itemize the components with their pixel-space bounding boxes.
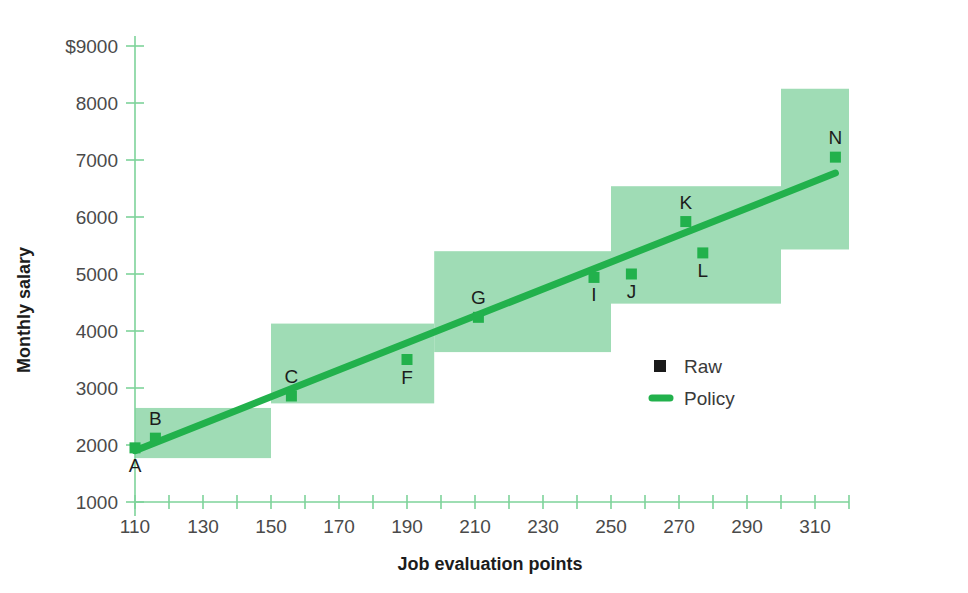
- y-tick-label: 1000: [76, 492, 118, 513]
- data-point-I: [589, 272, 600, 283]
- x-axis-title: Job evaluation points: [397, 554, 582, 574]
- data-point-label-K: K: [679, 192, 692, 213]
- x-tick-label: 230: [527, 516, 559, 537]
- data-point-label-C: C: [285, 366, 299, 387]
- y-tick-label: 4000: [76, 321, 118, 342]
- salary-band-rectangles: [135, 89, 849, 458]
- x-tick-label: 110: [120, 516, 150, 537]
- legend-marker-raw: [654, 360, 666, 372]
- data-point-label-B: B: [149, 408, 162, 429]
- x-tick-label: 210: [459, 516, 491, 537]
- data-point-label-L: L: [698, 260, 709, 281]
- x-tick-label: 290: [731, 516, 763, 537]
- data-point-label-N: N: [829, 127, 843, 148]
- salary-band-3: [434, 251, 611, 352]
- legend-label-raw: Raw: [684, 356, 722, 377]
- salary-band-5: [781, 89, 849, 250]
- data-point-G: [473, 312, 484, 323]
- data-point-B: [150, 433, 161, 444]
- data-point-label-I: I: [591, 284, 596, 305]
- data-point-label-G: G: [471, 287, 486, 308]
- chart-canvas: 10002000300040005000600070008000$9000 11…: [0, 0, 968, 593]
- data-point-label-A: A: [129, 455, 142, 476]
- x-tick-label: 170: [323, 516, 355, 537]
- y-axis-title: Monthly salary: [14, 247, 34, 373]
- x-tick-label: 250: [595, 516, 627, 537]
- y-tick-label: 8000: [76, 93, 118, 114]
- legend-label-policy: Policy: [684, 388, 735, 409]
- chart-legend: RawPolicy: [652, 356, 735, 409]
- y-tick-label: $9000: [65, 36, 118, 57]
- salary-structure-chart: 10002000300040005000600070008000$9000 11…: [0, 0, 968, 593]
- data-point-label-J: J: [627, 281, 637, 302]
- x-tick-label: 190: [391, 516, 423, 537]
- x-tick-label: 130: [187, 516, 219, 537]
- y-tick-label: 7000: [76, 150, 118, 171]
- x-axis: 110130150170190210230250270290310: [120, 495, 849, 537]
- data-point-label-F: F: [401, 367, 413, 388]
- x-tick-label: 270: [663, 516, 695, 537]
- policy-line: [135, 173, 835, 451]
- policy-trend-line: [135, 173, 835, 451]
- y-tick-label: 5000: [76, 264, 118, 285]
- data-point-C: [286, 390, 297, 401]
- data-point-J: [626, 269, 637, 280]
- y-tick-label: 6000: [76, 207, 118, 228]
- data-point-K: [680, 216, 691, 227]
- y-tick-label: 3000: [76, 378, 118, 399]
- y-tick-label: 2000: [76, 435, 118, 456]
- x-tick-label: 310: [799, 516, 831, 537]
- data-point-L: [697, 247, 708, 258]
- data-point-A: [130, 442, 141, 453]
- data-point-F: [402, 354, 413, 365]
- x-tick-label: 150: [255, 516, 287, 537]
- data-point-N: [830, 152, 841, 163]
